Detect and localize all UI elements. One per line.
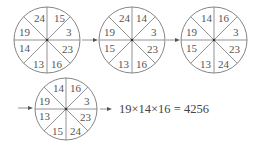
sector-bottom-right: 24 bbox=[70, 125, 82, 137]
sector-bottom-right: 24 bbox=[218, 58, 230, 70]
sector-right-lower: 23 bbox=[147, 43, 159, 55]
sector-bottom-left: 13 bbox=[200, 58, 212, 70]
sector-bottom-left: 15 bbox=[52, 125, 64, 137]
sector-right-upper: 3 bbox=[233, 26, 239, 38]
sector-top-left: 24 bbox=[34, 12, 46, 24]
right-arrow-icon bbox=[166, 38, 180, 42]
sector-left-upper: 19 bbox=[186, 26, 198, 38]
wheel-step-2: 14 3 23 16 13 15 19 24 bbox=[99, 7, 165, 73]
sector-top-right: 16 bbox=[70, 82, 82, 94]
sector-right-upper: 3 bbox=[84, 95, 90, 107]
sector-top-right: 16 bbox=[218, 12, 230, 24]
sector-left-lower: 13 bbox=[39, 110, 51, 122]
sector-bottom-left: 13 bbox=[118, 58, 130, 70]
sector-left-lower: 14 bbox=[19, 42, 31, 54]
sector-top-left: 14 bbox=[201, 12, 213, 24]
wheel-step-1: 15 3 23 16 13 14 19 24 bbox=[14, 7, 80, 73]
sector-top-left: 14 bbox=[53, 82, 65, 94]
sector-left-lower: 15 bbox=[104, 42, 116, 54]
sector-left-upper: 19 bbox=[19, 26, 31, 38]
sector-left-lower: 15 bbox=[186, 42, 198, 54]
sector-bottom-right: 16 bbox=[136, 58, 148, 70]
wheel-step-3: 16 3 23 24 13 15 19 14 bbox=[181, 7, 247, 73]
sector-top-right: 15 bbox=[54, 12, 66, 24]
right-arrow-icon bbox=[100, 107, 112, 111]
sector-top-left: 24 bbox=[119, 12, 131, 24]
wheel-step-4: 16 3 23 24 15 13 19 14 bbox=[35, 78, 97, 140]
sector-right-lower: 23 bbox=[62, 43, 74, 55]
wheel-diagram: 15 3 23 16 13 14 19 24 14 3 23 16 13 15 … bbox=[0, 0, 254, 146]
sector-bottom-left: 13 bbox=[33, 58, 45, 70]
sector-bottom-right: 16 bbox=[51, 58, 63, 70]
sector-right-upper: 3 bbox=[151, 26, 157, 38]
result-equation: 19×14×16 = 4256 bbox=[119, 102, 209, 116]
sector-top-right: 14 bbox=[136, 12, 148, 24]
right-arrow-icon bbox=[18, 106, 33, 110]
sector-left-upper: 19 bbox=[104, 26, 116, 38]
sector-left-upper: 19 bbox=[39, 95, 51, 107]
sector-right-lower: 23 bbox=[229, 43, 241, 55]
sector-right-lower: 23 bbox=[80, 111, 92, 123]
sector-right-upper: 3 bbox=[66, 26, 72, 38]
right-arrow-icon bbox=[82, 38, 98, 42]
